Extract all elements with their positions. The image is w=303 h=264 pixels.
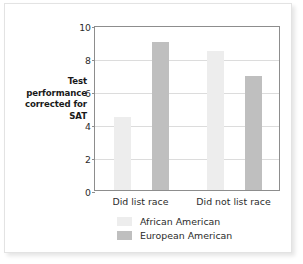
y-axis-tick-label: 6 (85, 88, 91, 99)
y-axis-tick-mark (92, 126, 95, 127)
legend-label: European American (140, 230, 232, 241)
y-axis-tick-label: 4 (85, 121, 91, 132)
y-axis-title: Test performance corrected for SAT (11, 76, 87, 122)
y-axis-tick-label: 10 (79, 22, 91, 33)
legend-swatch (117, 231, 132, 240)
x-axis-category-label: Did not list race (174, 196, 294, 207)
bar (207, 51, 224, 190)
bar (245, 76, 262, 190)
y-axis-tick-mark (92, 93, 95, 94)
bar (114, 117, 131, 190)
y-axis-tick-mark (92, 60, 95, 61)
y-axis-tick-mark (92, 192, 95, 193)
chart-figure: Test performance corrected for SAT 02468… (4, 3, 292, 253)
plot-area: 0246810 (94, 26, 280, 191)
legend-swatch (117, 217, 132, 226)
legend-item: African American (117, 214, 232, 228)
legend-item: European American (117, 228, 232, 242)
y-axis-tick-label: 8 (85, 55, 91, 66)
y-axis-tick-mark (92, 159, 95, 160)
chart-legend: African AmericanEuropean American (117, 214, 232, 242)
gridline (95, 60, 279, 61)
y-axis-tick-label: 2 (85, 154, 91, 165)
legend-label: African American (140, 216, 220, 227)
bar (152, 42, 169, 191)
y-axis-tick-mark (92, 27, 95, 28)
